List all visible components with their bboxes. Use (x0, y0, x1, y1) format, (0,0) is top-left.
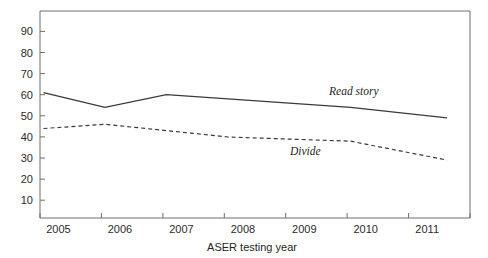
y-tick-label-90: 90 (21, 25, 33, 37)
series-line-divide (44, 124, 448, 160)
x-tick-label-2008: 2008 (231, 223, 255, 235)
y-axis-ticks (40, 31, 45, 200)
chart-svg: 10 20 30 40 50 60 70 80 90 2005 2006 200… (0, 0, 488, 258)
x-axis-title: ASER testing year (207, 241, 297, 253)
plot-frame (40, 11, 470, 218)
x-tick-label-2006: 2006 (108, 223, 132, 235)
x-tick-label-2009: 2009 (292, 223, 316, 235)
x-tick-label-2007: 2007 (169, 223, 193, 235)
x-tick-label-2011: 2011 (415, 223, 439, 235)
series-line-read-story (44, 93, 448, 118)
y-tick-label-20: 20 (21, 173, 33, 185)
y-axis-tick-labels: 10 20 30 40 50 60 70 80 90 (21, 25, 33, 206)
y-tick-label-70: 70 (21, 68, 33, 80)
y-tick-label-80: 80 (21, 47, 33, 59)
y-tick-label-60: 60 (21, 89, 33, 101)
y-tick-label-50: 50 (21, 110, 33, 122)
x-tick-label-2005: 2005 (46, 223, 70, 235)
frame-top-right-border (40, 11, 470, 218)
line-chart: 10 20 30 40 50 60 70 80 90 2005 2006 200… (0, 0, 488, 258)
x-tick-label-2010: 2010 (353, 223, 377, 235)
y-tick-label-30: 30 (21, 152, 33, 164)
y-tick-label-40: 40 (21, 131, 33, 143)
x-axis-ticks (40, 213, 470, 218)
series-label-read-story: Read story (328, 85, 379, 98)
y-tick-label-10: 10 (21, 194, 33, 206)
x-axis-tick-labels: 2005 2006 2007 2008 2009 2010 2011 (46, 223, 439, 235)
series-label-divide: Divide (289, 145, 321, 157)
